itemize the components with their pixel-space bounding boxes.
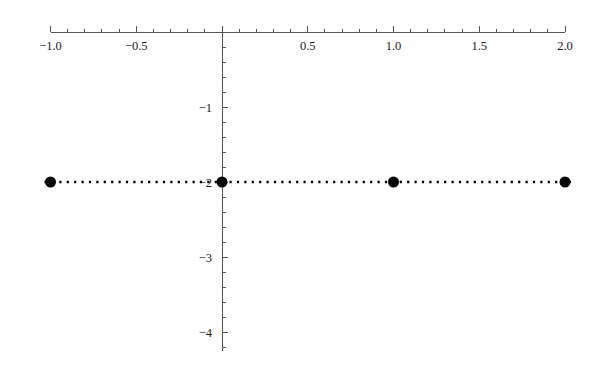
x-tick-label: 0.5 xyxy=(300,39,316,53)
x-tick-label: −1.0 xyxy=(39,39,62,53)
y-tick-label: −4 xyxy=(199,326,213,340)
data-point-marker xyxy=(388,177,399,188)
data-point-marker xyxy=(217,177,228,188)
y-tick-label: −3 xyxy=(199,251,212,265)
plot-canvas: −1.0−0.50.51.01.52.0 −1−2−3−4 xyxy=(0,0,598,368)
x-tick-label: 2.0 xyxy=(557,39,573,53)
data-point-marker xyxy=(560,177,571,188)
x-tick-label: −0.5 xyxy=(125,39,148,53)
x-tick-label: 1.0 xyxy=(386,39,402,53)
y-tick-label: −1 xyxy=(199,101,212,115)
y-tick-label: −2 xyxy=(199,176,212,190)
x-tick-label: 1.5 xyxy=(471,39,487,53)
plot-background xyxy=(0,0,598,368)
data-point-marker xyxy=(45,177,56,188)
scatter-plot-figure: −1.0−0.50.51.01.52.0 −1−2−3−4 xyxy=(0,0,598,368)
